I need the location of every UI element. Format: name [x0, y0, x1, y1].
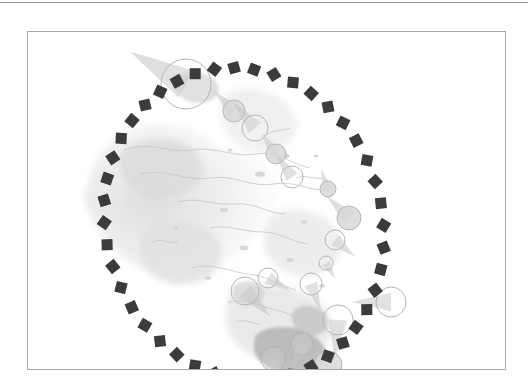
ellipse-square-marker[interactable]	[361, 304, 372, 315]
ellipse-square-marker[interactable]	[189, 359, 202, 369]
marker-circle[interactable]	[319, 256, 333, 270]
ellipse-square-marker[interactable]	[266, 67, 281, 82]
marker-6[interactable]	[320, 170, 336, 198]
ellipse-square-marker[interactable]	[124, 113, 139, 128]
ellipse-square-marker[interactable]	[349, 133, 364, 148]
ellipse-square-marker[interactable]	[375, 197, 387, 209]
document-page	[0, 0, 528, 386]
ellipse-square-marker[interactable]	[114, 281, 127, 294]
marker-circle[interactable]	[161, 59, 211, 109]
ellipse-square-marker[interactable]	[169, 347, 185, 363]
ellipse-square-marker[interactable]	[227, 61, 241, 75]
ellipse-square-marker[interactable]	[374, 263, 387, 276]
ellipse-square-marker[interactable]	[367, 174, 383, 190]
marker-5[interactable]	[276, 154, 303, 188]
ellipse-square-marker[interactable]	[190, 68, 201, 79]
ellipse-square-marker[interactable]	[137, 318, 152, 333]
ellipse-square-marker[interactable]	[105, 259, 120, 274]
ellipse-square-marker[interactable]	[125, 300, 139, 314]
marker-circle[interactable]	[337, 206, 361, 230]
ellipse-square-marker[interactable]	[336, 115, 351, 130]
ellipse-square-marker[interactable]	[115, 133, 127, 145]
marker-circle[interactable]	[258, 268, 278, 288]
ellipse-square-marker[interactable]	[376, 218, 391, 233]
marker-17[interactable]	[261, 347, 285, 369]
marker-circle[interactable]	[291, 333, 313, 355]
marker-circle[interactable]	[300, 273, 322, 295]
ellipse-square-marker[interactable]	[322, 100, 335, 113]
marker-circle[interactable]	[261, 347, 285, 369]
marker-circle[interactable]	[320, 181, 336, 197]
ellipse-square-marker[interactable]	[207, 366, 222, 369]
marker-circle[interactable]	[281, 166, 303, 188]
ellipse-square-marker[interactable]	[101, 239, 112, 250]
ellipse-square-marker[interactable]	[247, 62, 261, 76]
ellipse-square-marker[interactable]	[303, 86, 319, 102]
ellipse-square-marker[interactable]	[287, 77, 299, 89]
marker-circle[interactable]	[231, 277, 259, 305]
ellipse-square-marker[interactable]	[361, 154, 374, 167]
paper-sheet	[0, 3, 528, 386]
ellipse-square-marker[interactable]	[139, 98, 152, 111]
marker-circle[interactable]	[325, 230, 345, 250]
marker-circle[interactable]	[323, 305, 353, 335]
ellipse-square-marker[interactable]	[154, 335, 166, 347]
ellipse-square-marker[interactable]	[377, 240, 391, 254]
map-figure-frame	[27, 31, 506, 370]
map-canvas	[28, 32, 505, 369]
